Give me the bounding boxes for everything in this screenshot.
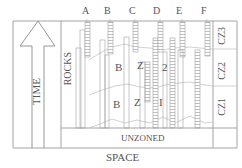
cz2-letter-z: Z (137, 60, 144, 71)
column-label-e: E (176, 6, 182, 16)
section-columns (76, 22, 210, 128)
cz1-letter-z: Z (134, 97, 141, 108)
cz2-letter-2: 2 (162, 62, 168, 73)
space-axis-label: SPACE (106, 152, 139, 163)
zone-label-cz1: CZ1 (217, 98, 227, 116)
cz1-letter-i: I (159, 97, 163, 108)
rocks-label: ROCKS (63, 52, 73, 85)
unzoned-label: UNZONED (121, 134, 165, 143)
biozone-diagram: A B C D E F TIME ROCKS SPACE CZ3 CZ2 CZ1… (0, 0, 242, 168)
zone-label-cz3: CZ3 (217, 27, 227, 45)
column-label-a: A (82, 6, 89, 16)
column-label-b: B (104, 6, 111, 16)
time-axis-label: TIME (31, 78, 42, 105)
column-label-c: C (129, 6, 136, 16)
column-label-f: F (201, 6, 207, 16)
cz2-letter-b: B (115, 62, 122, 73)
zone-label-cz2: CZ2 (217, 62, 227, 80)
column-label-d: D (153, 6, 160, 16)
cz1-letter-b: B (113, 99, 120, 110)
